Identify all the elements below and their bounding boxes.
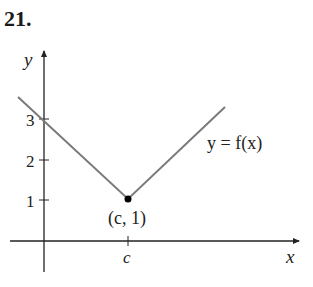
y-tick-label-1: 1 [26,192,35,211]
curve-f [18,97,225,199]
graph-figure: 21. y 3 2 1 c x (c, 1) y = f(x) [0,0,313,287]
x-tick-label-c: c [123,248,131,267]
curve-label: y = f(x) [207,133,262,154]
y-tick-label-3: 3 [26,111,35,130]
graph-canvas: y 3 2 1 c x (c, 1) y = f(x) [0,0,313,287]
y-tick-label-2: 2 [26,152,35,171]
point-c-1 [125,196,132,203]
x-axis-label: x [285,246,295,267]
y-axis-label: y [22,49,33,70]
point-label: (c, 1) [108,208,146,229]
